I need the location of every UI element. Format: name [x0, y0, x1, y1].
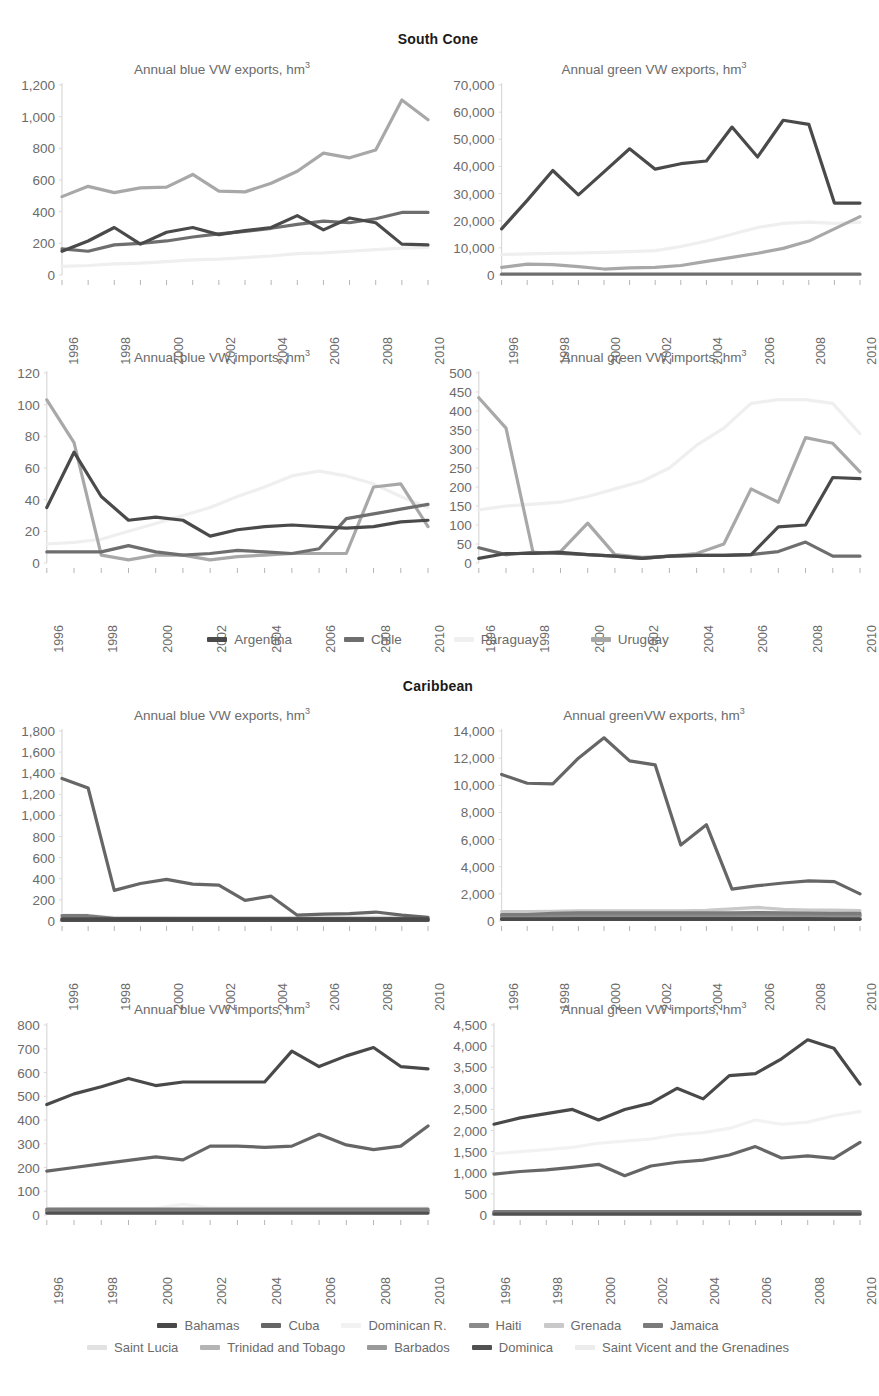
legend-label: Dominica	[499, 1340, 553, 1355]
y-axis-tick-label: 350	[449, 423, 472, 438]
y-axis-tick-label: 50	[457, 537, 472, 552]
x-axis-tick-label: 2010	[865, 1277, 879, 1305]
y-axis-tick-label: 700	[17, 1041, 40, 1056]
y-axis-tick-label: 100	[17, 397, 40, 412]
legend-item[interactable]: Cuba	[261, 1318, 319, 1333]
y-axis-tick-label: 4,000	[453, 1039, 487, 1054]
legend-item[interactable]: Haiti	[469, 1318, 522, 1333]
y-axis-tick-label: 120	[17, 367, 40, 381]
chart-title: Annual blue VW exports, hm3	[8, 60, 436, 77]
y-axis-tick-label: 400	[17, 1113, 40, 1128]
chart-title-text: Annual blue VW imports, hm	[134, 1002, 305, 1017]
y-axis-tick-label: 1,600	[21, 745, 55, 760]
y-axis-tick-label: 1,800	[21, 725, 55, 739]
legend-item[interactable]: Grenada	[544, 1318, 622, 1333]
legend-item[interactable]: Barbados	[367, 1340, 450, 1355]
series-line	[502, 912, 860, 914]
series-line	[47, 1125, 428, 1170]
y-axis-tick-label: 80	[25, 429, 40, 444]
plot-area: 05001,0001,5002,0002,5003,0003,5004,0004…	[440, 1019, 868, 1225]
y-axis-tick-label: 0	[487, 914, 495, 929]
legend-label: Saint Vicent and the Grenadines	[602, 1340, 789, 1355]
legend-swatch-icon	[454, 637, 474, 642]
x-axis-tick-label: 2006	[760, 1277, 774, 1305]
y-axis-tick-label: 600	[32, 173, 55, 188]
legend-item[interactable]: Jamaica	[643, 1318, 718, 1333]
legend-caribbean: BahamasCubaDominican R.HaitiGrenadaJamai…	[0, 1318, 876, 1362]
y-axis-tick-label: 200	[32, 236, 55, 251]
legend-label: Argentina	[234, 632, 292, 647]
x-axis-tick-label: 2008	[379, 1277, 393, 1305]
y-axis-tick-label: 0	[479, 1208, 487, 1223]
chart-panel-car-blue-exports: Annual blue VW exports, hm30200400600800…	[8, 706, 436, 989]
legend-item[interactable]: Bahamas	[157, 1318, 239, 1333]
y-axis-tick-label: 500	[464, 1186, 487, 1201]
legend-item[interactable]: Trinidad and Tobago	[200, 1340, 345, 1355]
y-axis-tick-label: 600	[17, 1065, 40, 1080]
legend-swatch-icon	[341, 1323, 361, 1328]
legend-swatch-icon	[200, 1345, 220, 1350]
chart-title: Annual blue VW imports, hm3	[8, 1000, 436, 1017]
chart-title: Annual blue VW exports, hm3	[8, 706, 436, 723]
legend-item[interactable]: Paraguay	[454, 632, 539, 647]
legend-item[interactable]: Uruguay	[591, 632, 669, 647]
y-axis-tick-label: 14,000	[453, 725, 494, 739]
legend-swatch-icon	[207, 637, 227, 642]
y-axis-tick-label: 1,200	[21, 79, 55, 93]
chart-title: Annual green VW exports, hm3	[440, 60, 868, 77]
y-axis-tick-label: 400	[32, 871, 55, 886]
y-axis-tick-label: 0	[47, 914, 55, 929]
legend-swatch-icon	[591, 637, 611, 642]
y-axis-tick-label: 200	[32, 892, 55, 907]
x-axis-labels: 19961998200020022004200620082010	[440, 931, 868, 989]
chart-panel-sc-blue-exports: Annual blue VW exports, hm30200400600800…	[8, 60, 436, 343]
series-line	[494, 1039, 860, 1123]
chart-panel-car-green-imports: Annual green VW imports, hm305001,0001,5…	[440, 1000, 868, 1283]
x-axis-tick-label: 1996	[52, 1277, 66, 1305]
chart-panel-sc-green-imports: Annual green VW imports, hm3050100150200…	[440, 348, 868, 631]
series-line	[502, 907, 860, 911]
x-axis-tick-label: 2006	[324, 1277, 338, 1305]
y-axis-tick-label: 10,000	[453, 240, 494, 255]
chart-title-text: Annual blue VW exports, hm	[134, 62, 305, 77]
x-axis-tick-label: 1996	[499, 1277, 513, 1305]
legend-item[interactable]: Argentina	[207, 632, 292, 647]
x-axis-tick-label: 2000	[604, 1277, 618, 1305]
y-axis-tick-label: 30,000	[453, 186, 494, 201]
legend-swatch-icon	[643, 1323, 663, 1328]
chart-panel-car-green-exports: Annual greenVW exports, hm302,0004,0006,…	[440, 706, 868, 989]
legend-swatch-icon	[344, 637, 364, 642]
y-axis-tick-label: 4,500	[453, 1019, 487, 1033]
legend-swatch-icon	[261, 1323, 281, 1328]
plot-area: 02004006008001,0001,2001,4001,6001,800	[8, 725, 436, 931]
legend-item[interactable]: Chile	[344, 632, 402, 647]
x-axis-labels: 19961998200020022004200620082010	[440, 1225, 868, 1283]
chart-title-text: Annual green VW exports, hm	[561, 62, 741, 77]
legend-label: Grenada	[571, 1318, 622, 1333]
legend-label: Jamaica	[670, 1318, 718, 1333]
y-axis-tick-label: 100	[449, 518, 472, 533]
legend-item[interactable]: Saint Lucia	[87, 1340, 178, 1355]
series-line	[62, 100, 428, 197]
legend-item[interactable]: Dominican R.	[341, 1318, 446, 1333]
chart-title-text: Annual greenVW exports, hm	[563, 708, 739, 723]
legend-item[interactable]: Saint Vicent and the Grenadines	[575, 1340, 789, 1355]
chart-title-superscript: 3	[305, 348, 310, 358]
y-axis-tick-label: 300	[449, 442, 472, 457]
chart-panel-sc-blue-imports: Annual blue VW imports, hm30204060801001…	[8, 348, 436, 631]
x-axis-labels: 19961998200020022004200620082010	[8, 931, 436, 989]
x-axis-labels: 19961998200020022004200620082010	[440, 573, 868, 631]
legend-item[interactable]: Dominica	[472, 1340, 553, 1355]
y-axis-tick-label: 2,000	[461, 886, 495, 901]
y-axis-tick-label: 1,200	[21, 787, 55, 802]
y-axis-tick-label: 200	[449, 480, 472, 495]
legend-label: Haiti	[496, 1318, 522, 1333]
y-axis-tick-label: 12,000	[453, 751, 494, 766]
y-axis-tick-label: 500	[17, 1089, 40, 1104]
y-axis-tick-label: 1,500	[453, 1144, 487, 1159]
y-axis-tick-label: 800	[32, 141, 55, 156]
chart-title: Annual greenVW exports, hm3	[440, 706, 868, 723]
legend-swatch-icon	[575, 1345, 595, 1350]
legend-label: Bahamas	[184, 1318, 239, 1333]
chart-title-text: Annual blue VW exports, hm	[134, 708, 305, 723]
